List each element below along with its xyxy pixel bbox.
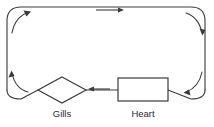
heart-rectangle-shape[interactable] bbox=[118, 78, 168, 101]
top-left-corner-arrow-icon bbox=[12, 11, 31, 34]
top-right-corner-arrow-shaft bbox=[186, 13, 202, 33]
vessel-loop bbox=[7, 7, 205, 99]
vessel-loop-outline bbox=[7, 7, 205, 90]
top-arrow-icon bbox=[96, 7, 124, 12]
top-arrow-head bbox=[118, 7, 124, 12]
vessel-segment-loop-to-gills bbox=[7, 90, 38, 99]
diagram-canvas: Gills Heart bbox=[0, 0, 214, 127]
node-gills[interactable] bbox=[38, 77, 86, 103]
bottom-right-corner-arrow-icon bbox=[184, 72, 203, 96]
bottom-left-corner-arrow-head bbox=[9, 71, 15, 78]
bottom-left-corner-arrow-icon bbox=[9, 71, 29, 93]
gills-label: Gills bbox=[53, 108, 72, 119]
bottom-arrow-head bbox=[88, 86, 94, 91]
bottom-right-corner-arrow-shaft bbox=[186, 72, 202, 92]
top-right-corner-arrow-icon bbox=[186, 13, 206, 36]
circulatory-diagram: Gills Heart bbox=[0, 0, 214, 127]
heart-label: Heart bbox=[131, 108, 155, 119]
node-heart[interactable] bbox=[118, 78, 168, 101]
bottom-arrow-icon bbox=[88, 86, 110, 91]
gills-diamond-shape[interactable] bbox=[38, 77, 86, 103]
